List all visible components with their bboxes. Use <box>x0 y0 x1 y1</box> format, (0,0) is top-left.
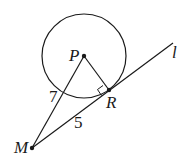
geometry-diagram: P R M l 7 5 <box>0 0 188 163</box>
point-m <box>30 146 34 150</box>
segment-pr <box>84 56 109 90</box>
label-l: l <box>172 43 177 62</box>
label-r: R <box>105 93 117 112</box>
length-mp: 7 <box>49 87 58 106</box>
point-p <box>82 54 86 58</box>
segment-mp <box>32 56 84 148</box>
point-r <box>107 88 111 92</box>
length-mr: 5 <box>74 113 83 132</box>
label-p: P <box>68 46 79 65</box>
label-m: M <box>13 138 29 157</box>
